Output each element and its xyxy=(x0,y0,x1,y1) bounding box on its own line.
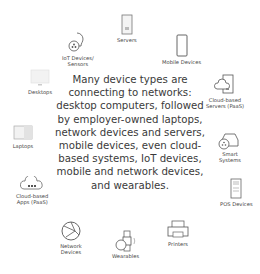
printer-icon xyxy=(166,220,190,240)
node-servers: Servers xyxy=(117,14,137,43)
node-laptops: Laptops xyxy=(12,124,34,149)
node-desktops: Desktops xyxy=(28,68,52,95)
printers-label: Printers xyxy=(168,241,188,247)
network-label-2: Devices xyxy=(61,249,81,255)
cloud-apps-label-2: Apps (PaaS) xyxy=(17,199,48,205)
cloud-server-icon xyxy=(213,74,237,96)
node-pos-devices: POS Devices xyxy=(220,178,253,207)
laptop-icon xyxy=(12,124,34,142)
pos-label: POS Devices xyxy=(220,201,253,207)
smartwatch-icon xyxy=(113,230,139,252)
node-mobile-devices: Mobile Devices xyxy=(162,34,201,65)
lightbulb-sensor-icon xyxy=(65,30,91,54)
desktop-monitor-icon xyxy=(29,68,51,88)
laptops-label: Laptops xyxy=(13,143,34,149)
mobile-phone-icon xyxy=(175,34,189,58)
node-cloud-servers: Cloud-based Servers (PaaS) xyxy=(206,74,244,109)
node-wearables: Wearables xyxy=(112,230,139,259)
wearables-label: Wearables xyxy=(112,253,139,259)
center-description: Many device types are connecting to netw… xyxy=(50,73,210,192)
cloud-apps-icon xyxy=(20,176,44,192)
server-tower-icon xyxy=(120,14,134,36)
node-smart-systems: Smart Systems xyxy=(216,130,244,163)
node-network-devices: Network Devices xyxy=(60,220,82,255)
node-iot-devices: IoT Devices/ Sensors xyxy=(62,30,94,67)
node-cloud-apps: Cloud-based Apps (PaaS) xyxy=(16,176,48,205)
cloud-servers-label-2: Servers (PaaS) xyxy=(206,103,244,109)
iot-label-2: Sensors xyxy=(68,61,88,67)
smart-car-icon xyxy=(216,130,244,150)
servers-label: Servers xyxy=(117,37,137,43)
node-printers: Printers xyxy=(166,220,190,247)
smart-label-2: Systems xyxy=(219,157,241,163)
mobile-label: Mobile Devices xyxy=(162,59,201,65)
desktops-label: Desktops xyxy=(28,89,52,95)
pos-terminal-icon xyxy=(229,178,243,200)
network-globe-icon xyxy=(60,220,82,242)
